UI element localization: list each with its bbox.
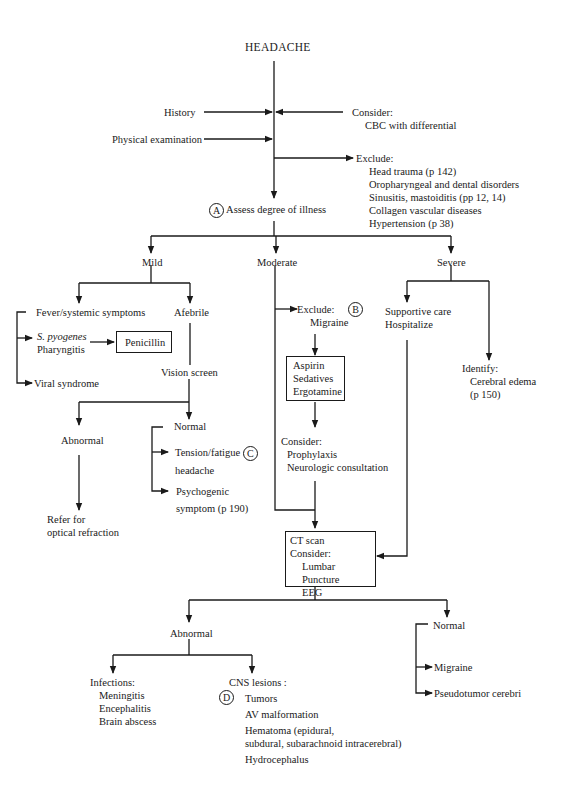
physical-exam-node: Physical examination [112,133,202,146]
exclude-item: Head trauma (p 142) [356,165,519,178]
tension-label: Tension/fatigue [175,447,240,458]
moderate-consider-item: Neurologic consultation [281,461,388,474]
marker-d-icon: D [219,690,234,705]
supportive-care-node: Supportive care Hospitalize [385,305,451,331]
flowchart-title: HEADACHE [245,41,311,54]
identify-item: Cerebral edema [462,375,536,388]
infection-item: Encephalitis [90,702,156,715]
normal-migraine-node: Migraine [434,661,473,674]
moderate-exclude-item: Migraine [297,316,349,329]
ct-normal-node: Normal [433,619,465,632]
med-item: Sedatives [293,372,344,385]
consider-label: Consider: [352,106,456,119]
cns-item: Hematoma (epidural, [245,724,402,737]
pseudotumor-node: Pseudotumor cerebri [434,687,521,700]
infection-item: Brain abscess [90,715,156,728]
exclude-label: Exclude: [356,152,519,165]
ct-abnormal-node: Abnormal [170,627,213,640]
identify-node: Identify: Cerebral edema (p 150) [462,362,536,401]
marker-b-icon: B [348,302,363,317]
cns-item: subdural, subarachnoid intracerebral) [245,737,402,750]
ct-item: EEG [290,586,375,599]
ct-item: Lumbar Puncture [290,560,375,586]
ct-line: Consider: [290,547,375,560]
psychogenic-node: Psychogenic symptom (p 190) [176,485,248,515]
consider-cbc-node: Consider: CBC with differential [352,106,456,132]
tension-node: Tension/fatigue C headache [175,446,258,477]
marker-a-icon: A [209,203,224,218]
exclude-list-node: Exclude: Head trauma (p 142) Oropharynge… [356,152,519,230]
strep-condition: Pharyngitis [37,343,87,356]
migraine-meds-box: Aspirin Sedatives Ergotamine [286,356,345,401]
history-node: History [164,106,196,119]
viral-node: Viral syndrome [34,377,99,390]
refer-node: Refer for optical refraction [47,513,119,539]
vision-screen-node: Vision screen [161,366,218,379]
med-item: Aspirin [293,359,344,372]
moderate-consider-item: Prophylaxis [281,448,388,461]
exclude-item: Collagen vascular diseases [356,204,519,217]
moderate-exclude-node: Exclude: Migraine [297,303,349,329]
exclude-item: Sinusitis, mastoiditis (pp 12, 14) [356,191,519,204]
cns-lesions-list: Tumors AV malformation Hematoma (epidura… [245,692,402,766]
psych-line: Psychogenic [176,485,248,498]
strep-organism: S. pyogenes [37,331,87,342]
afebrile-node: Afebrile [174,306,209,319]
infections-node: Infections: Meningitis Encephalitis Brai… [90,676,156,728]
exclude-item: Oropharyngeal and dental disorders [356,178,519,191]
severity-mild: Mild [142,256,162,269]
cns-item: Tumors [245,692,402,705]
fever-node: Fever/systemic symptoms [36,306,145,319]
cns-item: Hydrocephalus [245,753,402,766]
psych-line: symptom (p 190) [176,502,248,515]
cns-lesions-label: CNS lesions : [229,676,287,689]
supportive-line: Hospitalize [385,318,451,331]
ct-line: CT scan [290,534,375,547]
tension-line2: headache [175,464,258,477]
ct-scan-box: CT scan Consider: Lumbar Puncture EEG [285,531,376,587]
severity-severe: Severe [437,256,466,269]
infection-item: Meningitis [90,689,156,702]
identify-page: (p 150) [462,388,536,401]
vision-abnormal-node: Abnormal [61,434,104,447]
penicillin-box: Penicillin [116,331,172,353]
identify-label: Identify: [462,362,536,375]
med-item: Ergotamine [293,385,344,398]
consider-item: CBC with differential [352,119,456,132]
refer-line: Refer for [47,513,119,526]
exclude-item: Hypertension (p 38) [356,217,519,230]
marker-c-icon: C [243,446,258,461]
moderate-consider-label: Consider: [281,435,388,448]
strep-node: S. pyogenes Pharyngitis [37,330,87,356]
severity-moderate: Moderate [257,256,297,269]
supportive-line: Supportive care [385,305,451,318]
moderate-consider-node: Consider: Prophylaxis Neurologic consult… [281,435,388,474]
assess-label: Assess degree of illness [226,204,326,215]
infections-label: Infections: [90,676,156,689]
moderate-exclude-label: Exclude: [297,303,349,316]
refer-line: optical refraction [47,526,119,539]
cns-item: AV malformation [245,708,402,721]
assess-node: A Assess degree of illness [209,203,326,218]
vision-normal-node: Normal [174,420,206,433]
